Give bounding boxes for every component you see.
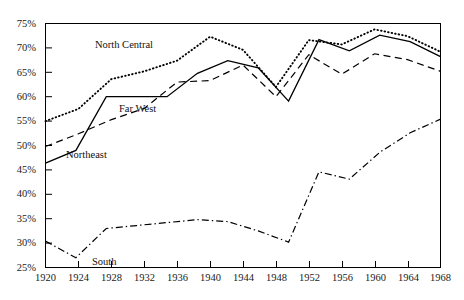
ytick-label: 65%	[2, 67, 36, 78]
xtick-label: 1968	[421, 272, 461, 283]
ytick-label: 45%	[2, 164, 36, 175]
series-label-northeast: Northeast	[66, 149, 107, 160]
ytick-label: 50%	[2, 140, 36, 151]
ytick-label: 75%	[2, 18, 36, 29]
ytick-label: 70%	[2, 42, 36, 53]
series-line-northeast	[46, 35, 441, 163]
ytick-label: 60%	[2, 91, 36, 102]
plot-frame	[46, 24, 441, 268]
series-group	[46, 29, 441, 257]
ytick-label: 40%	[2, 188, 36, 199]
series-label-far-west: Far West	[119, 103, 156, 114]
ytick-label: 30%	[2, 237, 36, 248]
ytick-label: 55%	[2, 115, 36, 126]
series-label-north-central: North Central	[95, 39, 153, 50]
line-chart: 75% 70% 65% 60% 55% 50% 45% 40% 35% 30% …	[0, 0, 464, 300]
series-line-south	[46, 119, 441, 258]
series-label-south: South	[92, 256, 117, 267]
ytick-label: 35%	[2, 213, 36, 224]
